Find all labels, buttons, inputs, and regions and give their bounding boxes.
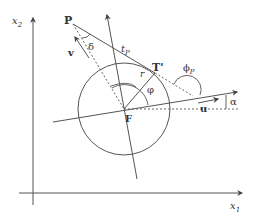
delta-label: δ: [88, 41, 94, 52]
r-label: r: [140, 69, 145, 79]
u-label: u: [200, 103, 207, 114]
normal-axis: [107, 15, 137, 179]
x1-label: x1: [230, 200, 240, 214]
alpha-label: α: [230, 96, 237, 107]
v-vector: [75, 37, 89, 58]
point-f-label: F: [125, 113, 132, 124]
x2-label: x2: [12, 15, 23, 29]
tangent-line-tp: [73, 24, 155, 73]
phi-label: φ: [147, 84, 154, 95]
delta-arc: [82, 34, 90, 38]
point-p-label: P: [64, 14, 72, 27]
tp-label: tP: [121, 43, 130, 57]
geometry-diagram: x2 x1 P T' F δ v tP r φ ϕP u α: [0, 0, 254, 219]
point-t-label: T': [152, 61, 164, 74]
phi-p-label: ϕP: [183, 62, 195, 76]
phi-p-arc: [174, 75, 201, 95]
tangent-extension-dashed: [155, 73, 193, 96]
v-label: v: [67, 47, 75, 58]
diagram-canvas: x2 x1 P T' F δ v tP r φ ϕP u α: [0, 0, 254, 219]
